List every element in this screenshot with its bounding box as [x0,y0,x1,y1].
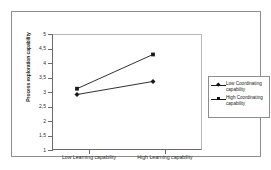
y-tick-label: 4,5 [32,46,46,51]
y-tick-mark [48,92,53,93]
y-axis-title: Process exploration capability [25,23,31,111]
legend-label: High Coordinating capability [226,95,267,106]
y-tick-label: 3,5 [32,75,46,80]
figure-outer-border: Process exploration capability 5 4,5 4 3… [11,11,261,157]
y-tick-label: 3 [32,90,46,95]
x-tick-label-high: High Learning capability [131,155,199,160]
y-tick-label: 1 [32,148,46,153]
legend[interactable]: Low Coordinating capability High Coordin… [208,76,270,118]
y-tick-mark [48,136,53,137]
y-tick-mark [48,150,53,151]
y-tick-mark [48,63,53,64]
x-tick-label-low: Low Learning capability [55,155,123,160]
legend-marker-diamond-icon [211,82,226,89]
y-tick-label: 4 [32,61,46,66]
legend-marker-square-icon [211,96,226,103]
chart-figure: Process exploration capability 5 4,5 4 3… [0,0,271,170]
y-tick-mark [48,107,53,108]
legend-item-high-coordinating[interactable]: High Coordinating capability [211,95,267,106]
legend-label: Low Coordinating capability [226,81,267,92]
y-tick-label: 2 [32,119,46,124]
y-tick-mark [48,121,53,122]
y-tick-label: 2,5 [32,104,46,109]
y-tick-mark [48,49,53,50]
y-tick-mark [48,78,53,79]
y-tick-label: 1,5 [32,133,46,138]
plot-area [52,34,202,150]
legend-item-low-coordinating[interactable]: Low Coordinating capability [211,81,267,92]
y-tick-mark [48,34,53,35]
y-tick-label: 5 [32,32,46,37]
